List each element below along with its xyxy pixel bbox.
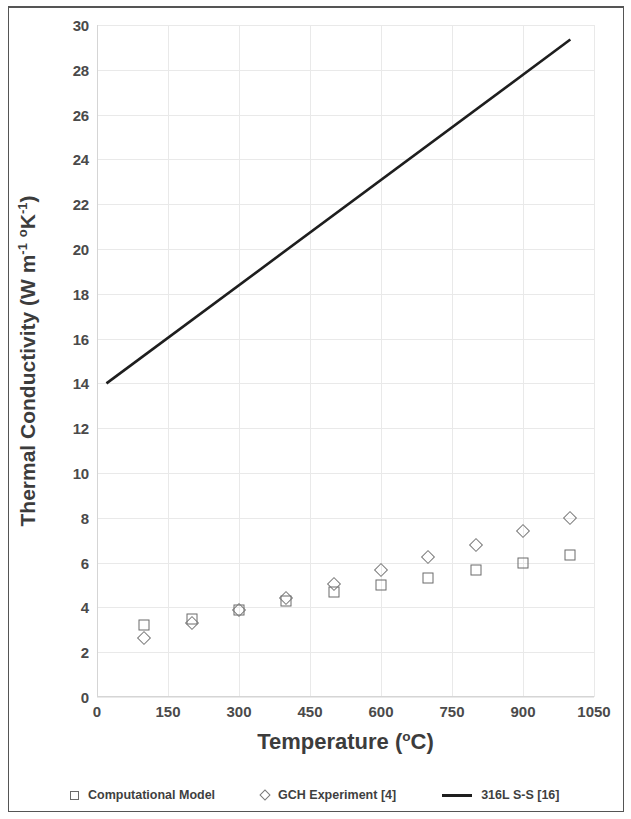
data-point-square: [518, 557, 529, 568]
y-axis-tick-label: 0: [81, 689, 89, 706]
chart-canvas: 024681012141618202224262830 Thermal Cond…: [0, 0, 631, 819]
legend-item[interactable]: Computational Model: [70, 788, 215, 802]
reference-line-svg: [97, 25, 594, 697]
y-axis-title-text: Thermal Conductivity (W m: [16, 255, 39, 527]
y-axis-title-exp-2: -1: [15, 203, 30, 215]
y-axis-title-paren: ): [16, 196, 39, 203]
y-axis-title-degree: o: [15, 229, 30, 237]
x-axis-tick-label: 450: [297, 703, 322, 720]
legend-item-label: GCH Experiment [4]: [278, 788, 396, 802]
plot-area: [97, 25, 594, 697]
y-axis-tick-label: 16: [73, 330, 89, 347]
series-line-316l-ss: [106, 40, 570, 384]
x-axis-tick-label: 300: [226, 703, 251, 720]
y-axis-tick-label: 12: [73, 420, 89, 437]
legend-item[interactable]: 316L S-S [16]: [442, 788, 559, 802]
x-axis-tick-label: 0: [93, 703, 101, 720]
x-axis-title: Temperature (oC): [97, 729, 594, 755]
chart-legend: Computational ModelGCH Experiment [4]316…: [70, 783, 570, 807]
y-axis-tick-label: 8: [81, 509, 89, 526]
data-point-square: [376, 580, 387, 591]
data-point-square: [139, 620, 150, 631]
square-icon: [70, 791, 79, 800]
y-axis-title-space: [16, 237, 39, 243]
y-axis-tick-label: 4: [81, 599, 89, 616]
x-axis-tick-label: 750: [439, 703, 464, 720]
y-axis-tick-label: 10: [73, 465, 89, 482]
y-axis-tick-label: 26: [73, 106, 89, 123]
data-point-square: [470, 565, 481, 576]
y-axis-tick-label: 24: [73, 151, 89, 168]
gridline-horizontal: [97, 697, 594, 698]
y-axis-title-container: Thermal Conductivity (W m-1 oK-1): [10, 25, 44, 697]
legend-item[interactable]: GCH Experiment [4]: [261, 788, 396, 802]
x-axis-tick-label: 900: [510, 703, 535, 720]
data-point-square: [423, 573, 434, 584]
x-axis-tick-label: 150: [155, 703, 180, 720]
legend-item-label: Computational Model: [88, 788, 215, 802]
y-axis-tick-label: 20: [73, 241, 89, 258]
x-axis-title-text: Temperature (: [257, 729, 402, 754]
x-axis-title-unit: C): [411, 729, 434, 754]
y-axis-title: Thermal Conductivity (W m-1 oK-1): [15, 196, 40, 527]
x-axis-tick-label: 1050: [577, 703, 610, 720]
y-axis-tick-label: 2: [81, 644, 89, 661]
x-axis-title-degree: o: [402, 729, 410, 744]
x-axis-tick-labels: 01503004506007509001050: [97, 703, 594, 727]
legend-item-label: 316L S-S [16]: [481, 788, 559, 802]
x-axis-tick-label: 600: [368, 703, 393, 720]
data-point-square: [565, 549, 576, 560]
y-axis-title-kelvin: K: [16, 214, 39, 229]
y-axis-tick-label: 6: [81, 554, 89, 571]
diamond-icon: [259, 789, 270, 800]
line-icon: [442, 794, 472, 797]
gridline-vertical: [594, 25, 595, 697]
y-axis-tick-label: 18: [73, 285, 89, 302]
y-axis-title-exp-1: -1: [15, 243, 30, 255]
y-axis-tick-label: 22: [73, 196, 89, 213]
y-axis-tick-label: 30: [73, 17, 89, 34]
y-axis-tick-label: 14: [73, 375, 89, 392]
y-axis-tick-label: 28: [73, 61, 89, 78]
